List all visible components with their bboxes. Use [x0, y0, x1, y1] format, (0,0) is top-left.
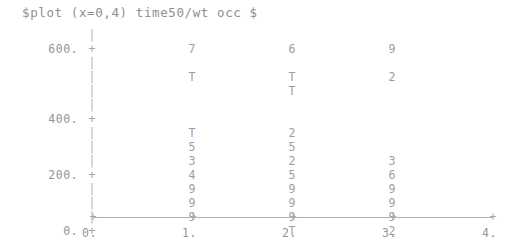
x-axis: +0.+1.+2.+3.+4.: [0, 210, 517, 246]
y-axis-tick-label: 200.: [0, 168, 78, 182]
x-axis-tick-mark: +: [383, 210, 403, 224]
plot-data-cell: 9: [382, 182, 402, 196]
plot-data-cell: T: [282, 84, 302, 98]
y-axis-tick-mark: +: [86, 112, 98, 126]
plot-row: |T: [0, 84, 517, 98]
x-axis-tick-mark: +: [183, 210, 203, 224]
y-axis-bar: |: [86, 196, 98, 210]
plot-row: |T2: [0, 126, 517, 140]
y-axis-bar: |: [86, 154, 98, 168]
plot-data-cell: 9: [382, 196, 402, 210]
plot-data-cell: 9: [282, 182, 302, 196]
plot-data-cell: 9: [182, 182, 202, 196]
plot-data-cell: 5: [282, 168, 302, 182]
plot-data-cell: 4: [182, 168, 202, 182]
x-axis-tick-label: 2.: [282, 226, 312, 240]
y-axis-bar: |: [86, 84, 98, 98]
plot-data-cell: 3: [182, 154, 202, 168]
plot-data-cell: 5: [182, 140, 202, 154]
x-axis-tick-label: 3.: [382, 226, 412, 240]
plot-data-cell: 9: [282, 196, 302, 210]
plot-row: |: [0, 28, 517, 42]
plot-data-cell: 9: [382, 42, 402, 56]
plot-data-cell: 2: [382, 70, 402, 84]
plot-data-cell: 2: [282, 154, 302, 168]
plot-data-cell: 6: [282, 42, 302, 56]
y-axis-bar: |: [86, 126, 98, 140]
plot-row: |: [0, 56, 517, 70]
y-axis-tick-mark: +: [86, 168, 98, 182]
plot-data-cell: 3: [382, 154, 402, 168]
x-axis-tick-mark: +: [483, 210, 503, 224]
plot-row: |999: [0, 196, 517, 210]
x-axis-tick-mark: +: [83, 210, 103, 224]
plot-data-cell: T: [182, 126, 202, 140]
x-axis-tick-label: 0.: [82, 226, 112, 240]
plot-row: 400.+: [0, 112, 517, 126]
plot-data-cell: T: [182, 70, 202, 84]
x-axis-tick-mark: +: [283, 210, 303, 224]
plot-data-cell: 7: [182, 42, 202, 56]
plot-data-cell: 6: [382, 168, 402, 182]
plot-row: |: [0, 98, 517, 112]
plot-command-line: $plot (x=0,4) time50/wt occ $: [22, 5, 258, 21]
plot-row: |55: [0, 140, 517, 154]
y-axis-bar: |: [86, 70, 98, 84]
plot-row: |999: [0, 182, 517, 196]
y-axis-bar: |: [86, 28, 98, 42]
x-axis-tick-label: 1.: [182, 226, 212, 240]
plot-row: 200.+456: [0, 168, 517, 182]
plot-data-cell: T: [282, 70, 302, 84]
y-axis-bar: |: [86, 56, 98, 70]
plot-area: |600.+769||TT2|T|400.+|T2|55|323200.+456…: [0, 28, 517, 210]
plot-data-cell: 5: [282, 140, 302, 154]
y-axis-bar: |: [86, 98, 98, 112]
y-axis-bar: |: [86, 182, 98, 196]
plot-row: |TT2: [0, 70, 517, 84]
y-axis-tick-mark: +: [86, 42, 98, 56]
plot-row: 600.+769: [0, 42, 517, 56]
y-axis-bar: |: [86, 140, 98, 154]
y-axis-tick-label: 600.: [0, 42, 78, 56]
y-axis-tick-label: 400.: [0, 112, 78, 126]
x-axis-tick-label: 4.: [482, 226, 512, 240]
plot-row: |323: [0, 154, 517, 168]
plot-data-cell: 9: [182, 196, 202, 210]
plot-data-cell: 2: [282, 126, 302, 140]
terminal-plot-screen: $plot (x=0,4) time50/wt occ $ |600.+769|…: [0, 0, 517, 246]
